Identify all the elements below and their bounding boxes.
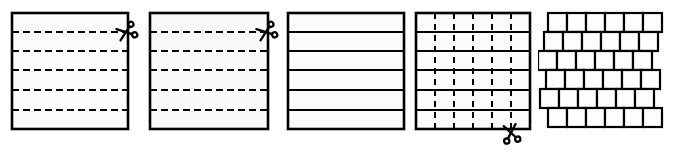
cut-square	[622, 70, 641, 89]
cut-square	[563, 32, 582, 51]
panel-4-canvas	[410, 0, 538, 154]
cut-square	[544, 32, 563, 51]
cut-square	[633, 51, 652, 70]
cut-square	[643, 13, 662, 32]
panel-3-sheet-group	[288, 13, 404, 129]
cut-square	[567, 13, 586, 32]
cut-square	[586, 13, 605, 32]
cut-square	[605, 108, 624, 127]
cut-square	[559, 89, 578, 108]
panel-3-canvas	[282, 0, 410, 154]
panel-5-canvas	[538, 0, 680, 154]
cut-square	[603, 70, 622, 89]
panel-4-sheet-group	[416, 13, 530, 144]
cut-square	[605, 13, 624, 32]
cut-square	[582, 32, 601, 51]
diagram-step-1	[0, 0, 140, 154]
cut-square	[584, 70, 603, 89]
cut-square	[567, 108, 586, 127]
cut-square	[595, 51, 614, 70]
cut-square	[616, 89, 635, 108]
cut-square	[639, 32, 658, 51]
cut-square	[624, 13, 643, 32]
cut-square	[546, 70, 565, 89]
diagram-step-3	[282, 0, 410, 154]
cut-square	[641, 70, 660, 89]
cutting-steps-diagram	[0, 0, 680, 154]
diagram-step-2	[140, 0, 282, 154]
cut-square	[624, 108, 643, 127]
panel-2-sheet-group	[150, 13, 278, 129]
cut-square	[597, 89, 616, 108]
cut-square	[540, 89, 559, 108]
cut-square	[548, 13, 567, 32]
panel-2-canvas	[140, 0, 282, 154]
cut-square	[635, 89, 654, 108]
diagram-step-4	[410, 0, 538, 154]
panel-1-sheet-group	[12, 13, 138, 129]
cut-square	[548, 108, 567, 127]
panel-1-canvas	[0, 0, 140, 154]
cut-square	[620, 32, 639, 51]
cut-square	[578, 89, 597, 108]
cut-square	[586, 108, 605, 127]
cut-square	[565, 70, 584, 89]
cut-square	[557, 51, 576, 70]
cut-square	[576, 51, 595, 70]
cut-square	[538, 51, 557, 70]
cut-square	[614, 51, 633, 70]
cut-squares-grid	[538, 13, 662, 127]
cut-square	[601, 32, 620, 51]
cut-square	[643, 108, 662, 127]
diagram-step-5	[538, 0, 680, 154]
